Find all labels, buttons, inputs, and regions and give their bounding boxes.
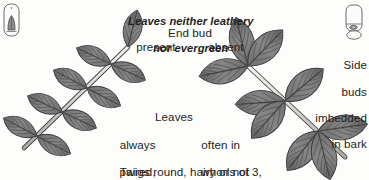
right-desc-line-1: often in (201, 138, 240, 151)
figure-canvas: Leaves neither leathery nor evergreen En… (0, 0, 369, 180)
end-bud-present-label: present (120, 41, 192, 53)
leaves-heading: Leaves (150, 111, 198, 123)
side-buds-annotation: Side buds imbedded in bark (299, 45, 367, 164)
side-buds-line-2: buds (341, 85, 367, 98)
left-leaflet-pair-1 (0, 110, 75, 162)
twigs-caption: Twigs round, hairy or not (0, 166, 369, 178)
left-desc-line-1: always (120, 138, 156, 151)
side-buds-line-4: in bark (332, 137, 368, 150)
side-buds-line-3: imbedded (315, 111, 367, 124)
side-buds-line-1: Side (343, 58, 367, 71)
left-leaflet-pair-2 (24, 88, 100, 136)
end-bud-absent-label: absent (190, 41, 262, 53)
end-bud-heading: End bud (128, 27, 252, 39)
